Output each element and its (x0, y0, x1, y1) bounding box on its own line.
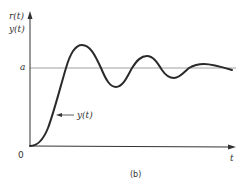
x-axis (30, 146, 230, 147)
response-curve (30, 45, 232, 146)
annotation-arrow-icon (56, 113, 62, 117)
figure-caption: (b) (130, 170, 141, 179)
step-response-figure (0, 0, 246, 190)
x-axis-label-t: t (230, 154, 234, 163)
y-axis-arrow-icon (28, 11, 33, 19)
curve-annotation-label: y(t) (77, 111, 93, 120)
origin-label: 0 (18, 151, 24, 160)
y-axis-label-r: r(t) (9, 12, 24, 21)
x-axis-arrow-icon (228, 145, 236, 150)
y-axis-label-y: y(t) (9, 25, 25, 34)
reference-label-a: a (20, 63, 25, 72)
